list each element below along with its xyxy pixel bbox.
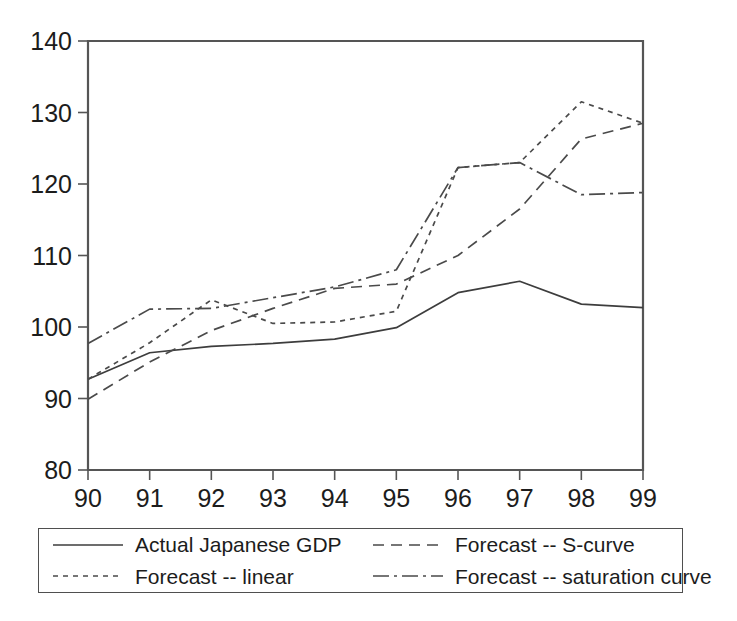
x-tick-label: 95: [382, 484, 410, 512]
legend-item-forecast-s-curve: Forecast -- S-curve: [359, 534, 712, 555]
y-tick-label: 90: [44, 385, 72, 413]
y-axis-ticks: 8090100110120130140: [30, 27, 88, 484]
series-line-forecast-saturation-curve: [88, 163, 643, 344]
legend-line-dash-dot-icon: [371, 570, 445, 582]
series-line-forecast-linear: [88, 102, 643, 379]
x-tick-label: 94: [321, 484, 349, 512]
series-line-actual-japanese-gdp: [88, 281, 643, 379]
x-tick-label: 97: [506, 484, 534, 512]
legend-label-actual-japanese-gdp: Actual Japanese GDP: [135, 534, 342, 555]
plot-border: [88, 41, 643, 470]
legend-line-dashed-icon: [371, 539, 445, 551]
axis-frame: [88, 41, 643, 470]
chart-plot-area: 8090100110120130140 90919293949596979899: [0, 0, 737, 512]
legend-label-forecast-s-curve: Forecast -- S-curve: [455, 534, 635, 555]
chart-legend: Actual Japanese GDP Forecast -- S-curve …: [38, 528, 683, 593]
x-tick-label: 98: [567, 484, 595, 512]
x-tick-label: 93: [259, 484, 287, 512]
legend-line-dotted-icon: [51, 570, 125, 582]
y-tick-label: 140: [30, 27, 72, 55]
legend-label-forecast-saturation-curve: Forecast -- saturation curve: [455, 566, 712, 587]
x-tick-label: 96: [444, 484, 472, 512]
x-tick-label: 92: [197, 484, 225, 512]
legend-item-actual-japanese-gdp: Actual Japanese GDP: [39, 534, 359, 555]
y-tick-label: 130: [30, 99, 72, 127]
legend-item-forecast-linear: Forecast -- linear: [39, 566, 359, 587]
x-tick-label: 91: [136, 484, 164, 512]
legend-label-forecast-linear: Forecast -- linear: [135, 566, 294, 587]
y-tick-label: 110: [32, 242, 72, 270]
y-tick-label: 80: [44, 456, 72, 484]
x-axis-ticks: 90919293949596979899: [74, 470, 657, 512]
x-tick-label: 90: [74, 484, 102, 512]
x-tick-label: 99: [629, 484, 657, 512]
data-series-group: [88, 102, 643, 399]
y-tick-label: 100: [30, 313, 72, 341]
legend-line-solid-icon: [51, 539, 125, 551]
line-chart-svg: 8090100110120130140 90919293949596979899: [0, 0, 737, 512]
gdp-forecast-figure: 8090100110120130140 90919293949596979899…: [0, 0, 737, 621]
series-line-forecast-s-curve: [88, 123, 643, 399]
y-tick-label: 120: [30, 170, 72, 198]
legend-item-forecast-saturation-curve: Forecast -- saturation curve: [359, 566, 712, 587]
